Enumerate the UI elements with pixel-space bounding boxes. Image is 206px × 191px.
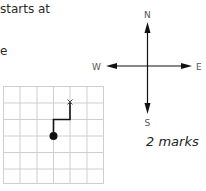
west-arrow-icon: [106, 63, 117, 69]
marks-label: 2 marks: [146, 134, 199, 149]
east-arrow-icon: [181, 63, 192, 69]
south-label: S: [145, 118, 151, 128]
west-label: W: [92, 62, 101, 72]
figure: N S W E: [0, 0, 206, 191]
north-arrow-icon: [145, 22, 151, 33]
route-path: [54, 103, 71, 136]
south-arrow-icon: [145, 103, 151, 114]
compass: N S W E: [92, 10, 202, 128]
north-label: N: [144, 10, 151, 20]
east-label: E: [196, 62, 202, 72]
start-dot: [50, 132, 58, 140]
